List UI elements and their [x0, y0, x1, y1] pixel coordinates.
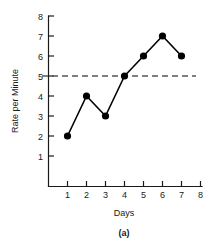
y-tick-label-3: 3	[38, 112, 43, 122]
y-tick-label-6: 6	[38, 52, 43, 62]
x-tick-label-7: 7	[179, 190, 184, 200]
line-chart-figure: 8 7 6 5 4 3 2 1 1 2 3 4 5 6 7 8	[0, 0, 224, 247]
data-point-day-1	[64, 132, 71, 139]
y-tick-label-4: 4	[38, 92, 43, 102]
data-point-day-5	[140, 52, 147, 59]
x-tick-label-8: 8	[198, 190, 203, 200]
data-point-day-4	[121, 72, 128, 79]
x-tick-label-5: 5	[141, 190, 146, 200]
y-tick-label-1: 1	[38, 152, 43, 162]
x-tick-label-6: 6	[160, 190, 165, 200]
x-axis-title: Days	[114, 208, 135, 218]
x-tick-label-3: 3	[103, 190, 108, 200]
data-point-day-2	[83, 92, 90, 99]
data-point-day-3	[102, 112, 109, 119]
x-tick-label-1: 1	[65, 190, 70, 200]
figure-caption: (a)	[119, 228, 130, 238]
x-tick-label-2: 2	[84, 190, 89, 200]
data-point-day-6	[159, 32, 166, 39]
y-axis-title: Rate per Minute	[10, 69, 20, 133]
chart-background	[0, 0, 224, 247]
y-tick-label-8: 8	[38, 12, 43, 22]
y-tick-label-7: 7	[38, 32, 43, 42]
data-point-day-7	[178, 52, 185, 59]
x-tick-label-4: 4	[122, 190, 127, 200]
y-tick-label-2: 2	[38, 132, 43, 142]
